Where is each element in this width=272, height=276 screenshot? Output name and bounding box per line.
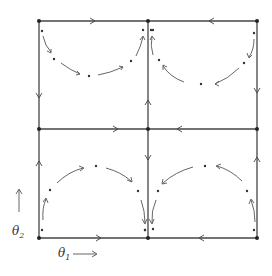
phase-portrait-diagram: θ2 θ1 bbox=[0, 0, 272, 276]
node bbox=[255, 127, 259, 131]
axis-theta1: θ1 bbox=[58, 246, 97, 262]
node bbox=[146, 127, 150, 131]
trajectory-bottom-left bbox=[41, 165, 147, 231]
node bbox=[37, 127, 41, 131]
node bbox=[255, 19, 259, 23]
node bbox=[37, 19, 41, 23]
node bbox=[146, 236, 150, 240]
axis-theta2: θ2 bbox=[12, 189, 24, 240]
node bbox=[255, 236, 259, 240]
trajectory-bottom-right bbox=[144, 164, 255, 231]
trajectory-top-left bbox=[41, 29, 145, 77]
x-axis-label: θ1 bbox=[58, 246, 70, 262]
node bbox=[37, 236, 41, 240]
y-axis-label: θ2 bbox=[12, 224, 24, 240]
node bbox=[146, 19, 150, 23]
trajectory-top-right bbox=[150, 29, 255, 86]
